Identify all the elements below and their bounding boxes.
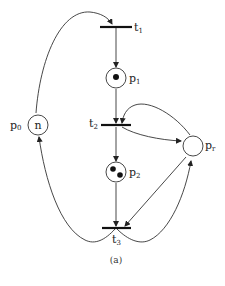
arc-pr-t2 xyxy=(122,104,190,135)
place-p0: n p0 xyxy=(10,115,48,135)
token-count: n xyxy=(34,119,41,132)
svg-text:p2: p2 xyxy=(129,166,141,180)
place-pr: pr xyxy=(183,136,216,156)
figure-caption: (a) xyxy=(110,255,122,265)
token xyxy=(110,166,116,172)
place-p1: p1 xyxy=(106,68,141,88)
token xyxy=(117,172,123,178)
arc-t3-p0 xyxy=(39,137,115,242)
arc-t2-pr xyxy=(122,127,181,141)
place-p2: p2 xyxy=(106,162,141,182)
svg-text:p1: p1 xyxy=(129,72,141,86)
svg-text:pr: pr xyxy=(205,139,216,153)
svg-text:t1: t1 xyxy=(134,21,143,35)
petri-net-diagram: t1 t2 t3 n p0 p1 p2 pr (a) xyxy=(0,0,225,286)
svg-text:t2: t2 xyxy=(89,117,98,131)
token xyxy=(113,74,119,80)
svg-text:p0: p0 xyxy=(10,119,22,132)
svg-text:t3: t3 xyxy=(112,233,121,247)
transition-t1: t1 xyxy=(100,21,143,35)
